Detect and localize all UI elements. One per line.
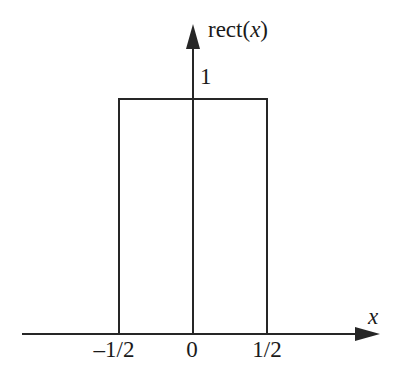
y-axis-amplitude-label: 1	[200, 65, 212, 88]
rect-pulse-top-edge	[118, 98, 268, 100]
rect-function-figure: rect(x) 1 x –1/2 0 1/2	[0, 0, 408, 377]
x-axis-arrowhead-icon	[355, 327, 380, 341]
function-label: rect(x)	[208, 18, 268, 41]
y-axis-line	[192, 40, 194, 334]
x-tick-label-zero: 0	[170, 338, 214, 361]
y-axis-arrowhead-icon	[186, 24, 200, 49]
x-tick-label-neg-half: –1/2	[78, 338, 150, 361]
function-label-prefix: rect(	[208, 17, 250, 42]
rect-pulse-right-edge	[266, 98, 268, 334]
x-axis-line	[22, 333, 374, 335]
function-label-variable: x	[250, 17, 260, 42]
function-label-suffix: )	[260, 17, 268, 42]
rect-pulse-left-edge	[118, 98, 120, 334]
x-tick-label-pos-half: 1/2	[236, 338, 298, 361]
x-axis-label: x	[368, 305, 378, 328]
